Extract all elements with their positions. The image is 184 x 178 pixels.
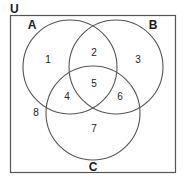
region-7-label: 7 xyxy=(91,123,97,134)
set-c-label: C xyxy=(89,160,98,174)
region-6-label: 6 xyxy=(117,91,123,102)
set-a-label: A xyxy=(28,18,37,32)
universe-frame xyxy=(11,16,176,173)
region-8-label: 8 xyxy=(33,107,39,118)
venn-diagram: U A B C 1 2 3 4 5 6 7 8 xyxy=(0,0,184,178)
region-2-label: 2 xyxy=(91,47,97,58)
region-5-label: 5 xyxy=(91,78,97,89)
region-4-label: 4 xyxy=(64,91,70,102)
region-1-label: 1 xyxy=(45,54,51,65)
universe-label: U xyxy=(10,2,19,16)
region-3-label: 3 xyxy=(135,54,141,65)
set-b-label: B xyxy=(149,18,158,32)
